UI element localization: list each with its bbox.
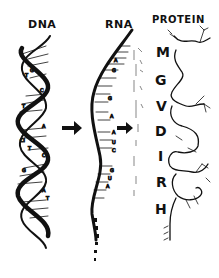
arrow-icon: [62, 121, 82, 135]
dna-label: DNA: [28, 18, 56, 31]
dna-helix: G T C T A Cl T C G A T: [18, 36, 50, 248]
svg-text:A: A: [112, 129, 116, 135]
svg-text:G: G: [110, 167, 114, 173]
svg-text:Cl: Cl: [20, 137, 25, 143]
amino-acid-label: R: [156, 174, 167, 190]
amino-acid-label: D: [155, 123, 167, 139]
svg-text:G: G: [112, 67, 116, 73]
svg-text:A: A: [110, 113, 114, 119]
svg-text:U: U: [112, 139, 116, 145]
protein-label: PROTEIN: [152, 14, 205, 25]
svg-text:A: A: [42, 123, 46, 129]
svg-text:G: G: [30, 67, 34, 73]
protein-chain: [164, 26, 210, 240]
svg-text:A: A: [42, 187, 46, 193]
svg-text:G: G: [22, 167, 26, 173]
svg-text:A: A: [106, 183, 110, 189]
rna-label: RNA: [105, 18, 133, 31]
illustration: G T C T A Cl T C G A T: [0, 0, 219, 278]
svg-text:C: C: [42, 152, 46, 158]
rna-strand: A G G A A U C G U A: [92, 30, 132, 261]
svg-text:T: T: [45, 195, 50, 201]
svg-text:U: U: [108, 175, 112, 181]
svg-text:C: C: [40, 87, 44, 93]
svg-text:G: G: [108, 95, 112, 101]
arrow-icon: [117, 122, 133, 134]
svg-text:T: T: [27, 145, 32, 151]
svg-text:C: C: [112, 147, 116, 153]
trna-column: [134, 48, 143, 196]
amino-acid-label: M: [156, 44, 170, 60]
sketch-svg: G T C T A Cl T C G A T: [0, 0, 219, 278]
amino-acid-label: H: [155, 201, 167, 217]
amino-acid-label: G: [155, 72, 167, 88]
amino-acid-label: V: [156, 98, 167, 114]
amino-acid-label: I: [158, 148, 163, 164]
svg-text:A: A: [114, 57, 118, 63]
svg-text:T: T: [24, 72, 29, 78]
